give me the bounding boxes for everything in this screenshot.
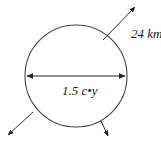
- arrow-bottom-right: [101, 121, 108, 136]
- arrow-bottom-left: [8, 112, 33, 135]
- velocity-label: 24 km: [131, 26, 161, 41]
- diagram-canvas: 1.5 c•y 24 km: [0, 0, 161, 150]
- diameter-label: 1.5 c•y: [62, 83, 98, 98]
